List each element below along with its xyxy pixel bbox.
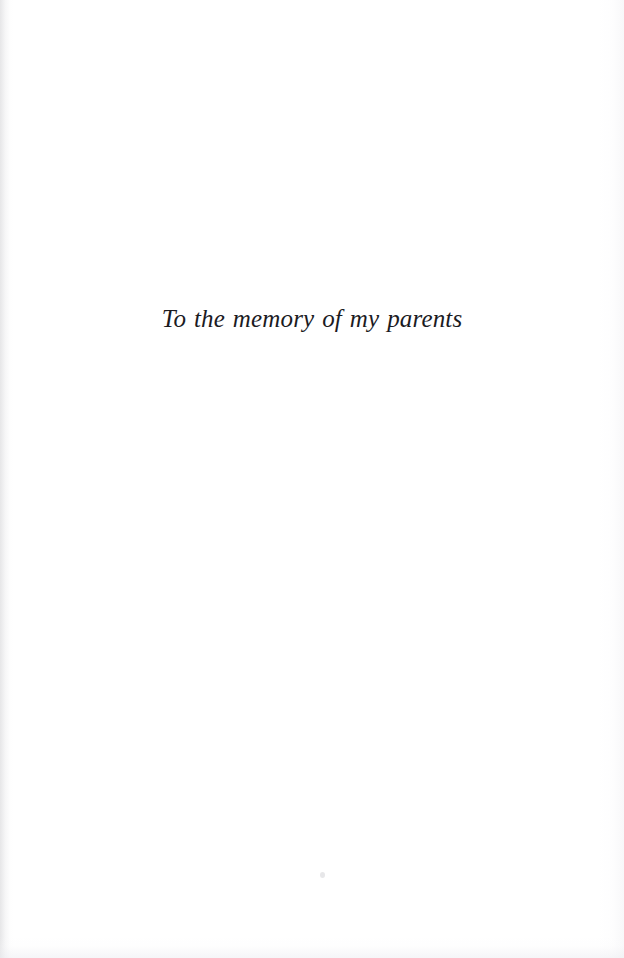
scan-artifact-right-edge bbox=[598, 0, 624, 958]
scan-artifact-left-edge bbox=[0, 0, 14, 958]
dedication-page: To the memory of my parents bbox=[0, 0, 624, 958]
dedication-text: To the memory of my parents bbox=[0, 303, 624, 335]
scan-artifact-bottom-edge bbox=[0, 936, 624, 958]
scan-artifact-speck bbox=[320, 872, 325, 878]
